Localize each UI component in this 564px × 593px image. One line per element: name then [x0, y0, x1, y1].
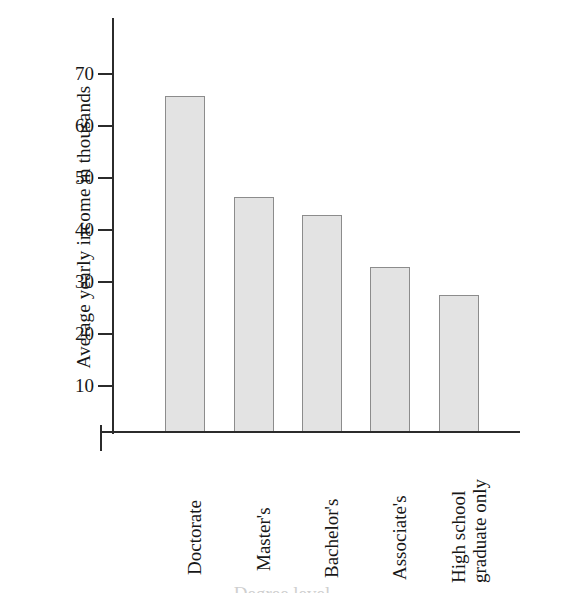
y-tick-20: [98, 333, 113, 335]
y-tick-70: [98, 73, 113, 75]
bar-doctorate: [165, 96, 205, 431]
y-tick-label-50: 50: [56, 168, 94, 187]
y-axis-line: [112, 18, 114, 434]
bar-high-school: [439, 295, 479, 431]
x-tick-label-associates: Associate's: [389, 495, 410, 580]
x-tick-label-high-school-line2: graduate only: [469, 479, 490, 583]
y-tick-label-60: 60: [56, 116, 94, 135]
y-tick-10: [98, 385, 113, 387]
x-tick-label-doctorate: Doctorate: [184, 500, 205, 575]
y-tick-label-20: 20: [56, 324, 94, 343]
y-tick-40: [98, 229, 113, 231]
y-tick-60: [98, 125, 113, 127]
y-tick-30: [98, 281, 113, 283]
x-axis-title: Degree level: [0, 583, 564, 593]
bar-bachelors: [302, 215, 342, 431]
y-tick-label-30: 30: [56, 272, 94, 291]
bar-masters: [234, 197, 274, 431]
x-tick-label-bachelors: Bachelor's: [321, 499, 342, 578]
y-tick-label-10: 10: [56, 376, 94, 395]
y-tick-label-40: 40: [56, 220, 94, 239]
y-tick-label-70: 70: [56, 64, 94, 83]
x-tick-label-high-school: High school graduate only: [448, 479, 490, 583]
x-axis-line: [100, 431, 520, 433]
bar-chart-figure: Average yearly income in thousands 70 60…: [0, 0, 564, 593]
x-tick-label-masters: Master's: [253, 507, 274, 571]
y-tick-50: [98, 177, 113, 179]
bar-associates: [370, 267, 410, 431]
x-axis-origin-tick: [100, 425, 102, 451]
x-tick-label-high-school-line1: High school: [448, 479, 469, 583]
